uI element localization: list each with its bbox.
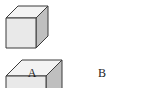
figure-canvas: A B bbox=[0, 0, 141, 88]
cube-comparison-figure: A B bbox=[0, 0, 141, 88]
cube-a bbox=[0, 0, 52, 54]
cube-a-front-face bbox=[6, 18, 36, 48]
cube-a-label: A bbox=[10, 66, 54, 80]
cube-a-drawing bbox=[0, 0, 52, 54]
cube-b-label: B bbox=[74, 66, 130, 80]
